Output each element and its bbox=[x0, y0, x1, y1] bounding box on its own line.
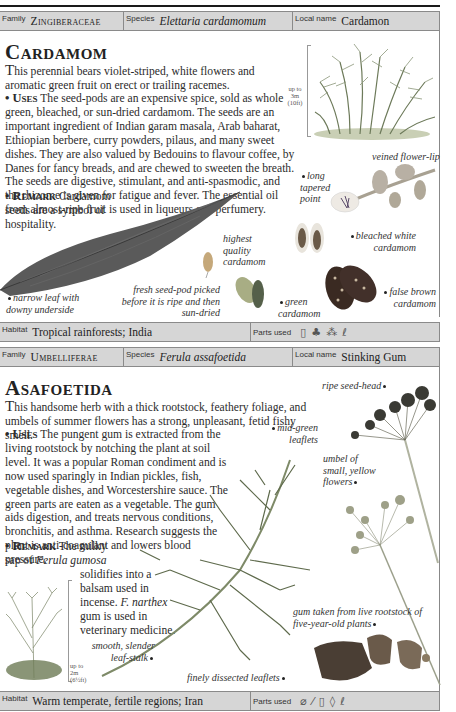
caption-narrow-leaf: narrow leaf with downy underside bbox=[6, 292, 91, 315]
family-value: Umbelliferae bbox=[31, 351, 98, 363]
habitat-cell: Habitat Warm temperate, fertile regions;… bbox=[0, 692, 251, 710]
caption-finely-dissected: finely dissected leaflets bbox=[187, 672, 297, 684]
fresh-seed-pod bbox=[200, 250, 216, 280]
habitat-label: Habitat bbox=[2, 325, 27, 334]
asafoetida-header-bar: Family Umbelliferae Species Ferula assaf… bbox=[0, 347, 440, 367]
seed-icon: ▯ bbox=[319, 695, 325, 708]
species-cell: Species Ferula assafoetida bbox=[124, 348, 293, 366]
habitat-value: Tropical rainforests; India bbox=[32, 326, 152, 338]
caption-umbel: umbel of small, yellow flowers bbox=[323, 453, 383, 488]
habitat-label: Habitat bbox=[2, 694, 27, 703]
fruit-icon: ♣ bbox=[311, 326, 321, 339]
caption-ripe-seed-head: ripe seed-head bbox=[322, 380, 392, 392]
parts-used-label: Parts used bbox=[253, 697, 291, 706]
habitat-cell: Habitat Tropical rainforests; India bbox=[0, 323, 251, 341]
cardamom-header-bar: Family Zingiberaceae Species Elettaria c… bbox=[0, 11, 440, 31]
family-cell: Family Umbelliferae bbox=[0, 348, 124, 366]
local-name-value: Stinking Gum bbox=[341, 351, 406, 363]
cardamom-intro: This perennial bears violet-striped, whi… bbox=[5, 64, 285, 93]
cardamom-plant-illustration bbox=[310, 42, 440, 142]
plant-scale-label: up to3m(10ft) bbox=[284, 85, 306, 106]
caption-green-cardamom: green cardamom bbox=[278, 296, 328, 319]
species-cell: Species Elettaria cardamomum bbox=[124, 12, 293, 30]
parts-used-cell: Parts used ⌀ ⁄ ▯ ◊ ℓ bbox=[251, 692, 439, 710]
cardamom-title: Cardamom bbox=[5, 40, 107, 65]
parts-used-label: Parts used bbox=[253, 328, 291, 337]
false-brown-cardamom bbox=[320, 258, 380, 312]
habitat-value: Warm temperate, fertile regions; Iran bbox=[32, 695, 203, 707]
oil-icon: ℓ bbox=[342, 326, 347, 339]
asafoetida-gum-illustration bbox=[312, 628, 432, 688]
asafoetida-title: Asafoetida bbox=[5, 376, 113, 401]
species-value: Elettaria cardamomum bbox=[159, 15, 266, 27]
green-cardamom-pods bbox=[232, 272, 272, 312]
caption-mid-green-leaflets: mid-green leaflets bbox=[250, 422, 318, 445]
oil-icon: ℓ bbox=[340, 695, 345, 708]
asafoetida-footer-bar: Habitat Warm temperate, fertile regions;… bbox=[0, 691, 440, 711]
local-name-value: Cardamon bbox=[341, 15, 389, 27]
caption-highest-quality: highest quality cardamom bbox=[223, 233, 278, 268]
caption-veined-flower-lip: veined flower-lip bbox=[372, 151, 442, 163]
stem-icon: ⁄ bbox=[312, 695, 314, 708]
caption-long-tapered-point: long tapered point bbox=[300, 170, 340, 205]
local-name-cell: Local name Stinking Gum bbox=[293, 348, 439, 366]
cardamom-footer-bar: Habitat Tropical rainforests; India Part… bbox=[0, 322, 440, 342]
page-top-rule bbox=[0, 5, 440, 7]
caption-gum: gum taken from live rootstock of five-ye… bbox=[293, 606, 423, 629]
family-value: Zingiberaceae bbox=[31, 15, 101, 27]
asafoetida-plant-illustration bbox=[2, 578, 66, 682]
caption-bleached-white: bleached white cardamom bbox=[336, 230, 416, 253]
local-name-cell: Local name Cardamon bbox=[293, 12, 439, 30]
species-value: Ferula assafoetida bbox=[159, 351, 246, 363]
bleached-cardamom-pods bbox=[290, 218, 330, 260]
plant-scale-label: up to2m(6½ft) bbox=[70, 662, 92, 683]
family-cell: Family Zingiberaceae bbox=[0, 12, 124, 30]
asafoetida-remark-a: • Remark The milky sap of Ferula gumosa bbox=[5, 540, 115, 568]
family-label: Family bbox=[2, 14, 26, 23]
seed-cluster-icon: ⁂ bbox=[326, 326, 337, 339]
caption-false-brown: false brown cardamom bbox=[380, 286, 436, 309]
local-name-label: Local name bbox=[295, 14, 336, 23]
gum-drop-icon: ◊ bbox=[330, 695, 335, 708]
parts-used-cell: Parts used ▯ ♣ ⁂ ℓ bbox=[251, 323, 439, 341]
local-name-label: Local name bbox=[295, 350, 336, 359]
family-label: Family bbox=[2, 350, 26, 359]
species-label: Species bbox=[126, 350, 154, 359]
caption-fresh-seed-pod: fresh seed-pod picked before it is ripe … bbox=[112, 284, 220, 319]
species-label: Species bbox=[126, 14, 154, 23]
leaf-icon: ⌀ bbox=[300, 695, 307, 708]
caption-smooth-leaf-stalk: smooth, slender leaf-stalk bbox=[85, 640, 155, 663]
seed-icon: ▯ bbox=[300, 326, 306, 339]
